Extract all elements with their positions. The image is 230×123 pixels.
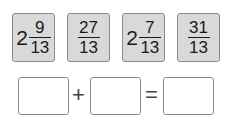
fraction: 7 13 bbox=[139, 19, 161, 57]
fraction-card-2[interactable]: 27 13 bbox=[67, 13, 110, 62]
equals-sign: = bbox=[145, 82, 158, 108]
whole-number: 2 bbox=[16, 27, 28, 48]
fraction: 9 13 bbox=[29, 19, 51, 57]
whole-number: 2 bbox=[126, 27, 138, 48]
denominator: 13 bbox=[30, 39, 49, 56]
answer-box-sum[interactable] bbox=[163, 77, 214, 115]
answer-box-addend-1[interactable] bbox=[18, 77, 69, 115]
denominator: 13 bbox=[189, 39, 208, 56]
plus-sign: + bbox=[72, 82, 85, 108]
numerator: 9 bbox=[35, 19, 44, 36]
fraction: 31 13 bbox=[188, 19, 210, 57]
answer-box-addend-2[interactable] bbox=[90, 77, 141, 115]
denominator: 13 bbox=[140, 39, 159, 56]
numerator: 27 bbox=[79, 19, 98, 36]
numerator: 31 bbox=[189, 19, 208, 36]
numerator: 7 bbox=[145, 19, 154, 36]
fraction-card-1[interactable]: 2 9 13 bbox=[12, 13, 55, 62]
fraction: 27 13 bbox=[78, 19, 100, 57]
fraction-card-4[interactable]: 31 13 bbox=[177, 13, 220, 62]
fraction-card-3[interactable]: 2 7 13 bbox=[122, 13, 165, 62]
denominator: 13 bbox=[79, 39, 98, 56]
